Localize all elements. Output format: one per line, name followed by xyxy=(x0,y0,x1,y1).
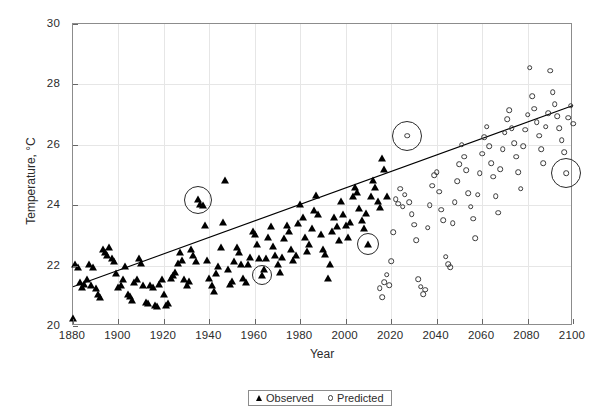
data-point-observed xyxy=(294,220,302,227)
x-tick-mark xyxy=(573,319,574,324)
data-point-observed xyxy=(296,200,304,207)
data-point-observed xyxy=(303,247,311,254)
data-point-observed xyxy=(292,252,300,259)
legend-entry-predicted[interactable]: Predicted xyxy=(328,392,384,404)
data-point-predicted xyxy=(463,168,469,174)
data-point-predicted xyxy=(566,115,572,121)
data-point-predicted xyxy=(436,189,442,195)
data-point-observed xyxy=(285,227,293,234)
data-point-observed xyxy=(121,262,129,269)
data-point-predicted xyxy=(538,147,544,153)
data-point-observed xyxy=(378,155,386,162)
data-point-predicted xyxy=(557,125,563,131)
x-tick-label: 1940 xyxy=(195,329,221,341)
data-point-predicted xyxy=(529,94,535,100)
data-point-observed xyxy=(344,233,352,240)
x-tick-label: 1900 xyxy=(104,329,130,341)
data-point-observed xyxy=(219,218,227,225)
data-point-observed xyxy=(317,230,325,237)
data-point-predicted xyxy=(470,216,476,222)
data-point-observed xyxy=(96,294,104,301)
chart-legend[interactable]: Observed Predicted xyxy=(248,390,392,406)
data-point-observed xyxy=(333,223,341,230)
data-point-predicted xyxy=(497,166,503,172)
data-point-observed xyxy=(314,211,322,218)
data-point-predicted xyxy=(377,285,383,291)
data-point-observed xyxy=(210,288,218,295)
data-point-predicted xyxy=(486,144,492,150)
y-tick-mark xyxy=(73,24,78,25)
data-point-observed xyxy=(228,277,236,284)
y-tick-mark xyxy=(73,205,78,206)
data-point-observed xyxy=(242,279,250,286)
data-point-predicted xyxy=(454,178,460,184)
data-point-observed xyxy=(353,188,361,195)
highlight-circle xyxy=(551,158,581,188)
highlight-circle xyxy=(357,233,379,255)
data-point-predicted xyxy=(500,147,506,153)
data-point-predicted xyxy=(409,211,415,217)
data-point-observed xyxy=(153,303,161,310)
data-point-observed xyxy=(264,233,272,240)
x-tick-label: 1960 xyxy=(241,329,267,341)
data-point-predicted xyxy=(520,144,526,150)
data-point-predicted xyxy=(477,171,483,177)
data-point-observed xyxy=(267,223,275,230)
data-point-predicted xyxy=(518,186,524,192)
data-point-predicted xyxy=(559,137,565,143)
data-point-observed xyxy=(274,261,282,268)
data-point-predicted xyxy=(484,124,490,130)
data-point-predicted xyxy=(509,125,515,131)
data-point-predicted xyxy=(511,140,517,146)
data-point-predicted xyxy=(502,130,508,136)
data-point-predicted xyxy=(397,186,403,192)
x-tick-label: 2080 xyxy=(513,329,539,341)
data-point-observed xyxy=(128,297,136,304)
y-tick-mark xyxy=(73,84,78,85)
data-point-predicted xyxy=(379,295,385,301)
x-tick-label: 2000 xyxy=(332,329,358,341)
data-point-observed xyxy=(246,253,254,260)
data-point-predicted xyxy=(461,154,467,160)
chart-figure: 1880190019201940196019802000202020402060… xyxy=(0,0,599,418)
data-point-observed xyxy=(362,209,370,216)
x-tick-mark xyxy=(255,319,256,324)
data-point-observed xyxy=(371,184,379,191)
x-tick-label: 2040 xyxy=(422,329,448,341)
data-point-predicted xyxy=(422,287,428,293)
data-point-observed xyxy=(105,244,113,251)
x-tick-mark xyxy=(73,319,74,324)
data-point-predicted xyxy=(441,218,447,224)
x-tick-label: 1980 xyxy=(286,329,312,341)
data-point-observed xyxy=(235,249,243,256)
data-point-observed xyxy=(164,300,172,307)
data-point-predicted xyxy=(536,133,542,139)
y-tick-label: 22 xyxy=(47,259,60,271)
data-point-predicted xyxy=(552,101,558,107)
data-point-observed xyxy=(176,249,184,256)
data-point-observed xyxy=(217,244,225,251)
data-point-predicted xyxy=(427,202,433,208)
y-tick-mark xyxy=(73,145,78,146)
data-point-predicted xyxy=(447,264,453,270)
x-tick-label: 2100 xyxy=(559,329,585,341)
data-point-predicted xyxy=(534,119,540,125)
highlight-circle xyxy=(252,265,272,285)
data-point-predicted xyxy=(466,190,472,196)
data-point-observed xyxy=(269,242,277,249)
data-point-predicted xyxy=(482,134,488,140)
data-point-observed xyxy=(110,258,118,265)
data-point-observed xyxy=(335,236,343,243)
data-point-predicted xyxy=(384,272,390,278)
data-point-predicted xyxy=(472,236,478,242)
data-point-observed xyxy=(160,291,168,298)
data-point-predicted xyxy=(402,192,408,198)
data-point-predicted xyxy=(495,210,501,216)
x-tick-label: 2020 xyxy=(377,329,403,341)
data-point-observed xyxy=(321,250,329,257)
x-tick-mark xyxy=(300,319,301,324)
data-point-predicted xyxy=(554,113,560,119)
data-point-observed xyxy=(89,264,97,271)
legend-entry-observed[interactable]: Observed xyxy=(256,392,314,404)
y-tick-mark xyxy=(73,326,78,327)
